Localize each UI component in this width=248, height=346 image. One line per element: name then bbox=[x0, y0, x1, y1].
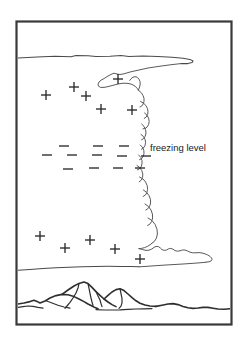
freezing-level-label: freezing level bbox=[150, 142, 206, 153]
thunderstorm-diagram-svg: freezing level bbox=[0, 0, 248, 346]
figure-frame bbox=[17, 22, 232, 325]
figure-root: freezing level bbox=[0, 0, 248, 346]
